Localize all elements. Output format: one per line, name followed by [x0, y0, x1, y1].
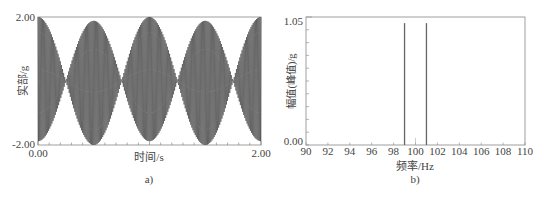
ytick-top: 2.00	[16, 11, 36, 23]
xtick-right: 2.00	[251, 147, 271, 159]
x-axis-label: 频率/Hz	[396, 159, 434, 172]
y-axis-label: 幅值(峰值)/g	[285, 53, 298, 109]
beat-waveform	[38, 17, 261, 145]
x-tick-label: 104	[451, 145, 468, 157]
spectral-lines	[405, 23, 427, 145]
plot-frame	[306, 17, 525, 145]
xtick-left: 0.00	[28, 147, 48, 159]
chart-panel-b: 1.05 0.00 9092949698100102104106108110 频…	[273, 0, 546, 202]
x-tick-label: 106	[473, 145, 490, 157]
spectrum-chart: 1.05 0.00 9092949698100102104106108110 频…	[273, 0, 546, 202]
x-tick-label: 108	[495, 145, 512, 157]
chart-panel-a: 2.00 -2.00 0.00 2.00 时间/s 实部/g a)	[0, 0, 273, 202]
panel-caption: a)	[145, 173, 154, 186]
y-axis-label: 实部/g	[16, 65, 29, 96]
x-tick-label: 102	[429, 145, 446, 157]
x-tick-labels: 9092949698100102104106108110	[301, 145, 534, 157]
x-tick-label: 98	[388, 145, 400, 157]
x-tick-label: 96	[366, 145, 378, 157]
x-tick-label: 92	[322, 145, 333, 157]
x-axis-label: 时间/s	[134, 151, 163, 163]
x-tick-label: 100	[407, 145, 424, 157]
panel-caption: b)	[410, 173, 420, 186]
y-ticks	[306, 17, 312, 145]
x-tick-label: 90	[301, 145, 313, 157]
ytick-top: 1.05	[284, 15, 304, 27]
x-tick-label: 94	[344, 145, 356, 157]
time-domain-chart: 2.00 -2.00 0.00 2.00 时间/s 实部/g a)	[0, 0, 273, 202]
x-tick-label: 110	[517, 145, 534, 157]
